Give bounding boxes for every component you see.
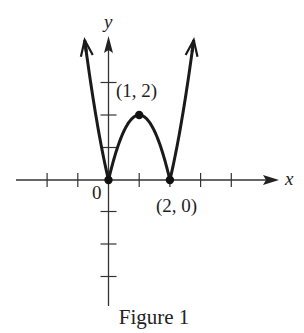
root-point-label: (2, 0) (156, 196, 197, 215)
peak-point-label: (1, 2) (116, 81, 157, 100)
point-marker (135, 111, 143, 119)
figure: y x 0 (1, 2) (2, 0) Figure 1 (0, 0, 304, 333)
x-axis-label: x (285, 169, 293, 188)
left-curve-arrow-icon-shaft (85, 40, 87, 52)
right-curve-arrow-icon-shaft (192, 40, 194, 52)
figure-caption: Figure 1 (0, 307, 304, 328)
point-marker (104, 176, 112, 184)
origin-label: 0 (92, 183, 102, 202)
chart-plot (0, 0, 304, 333)
y-axis-label: y (104, 12, 112, 31)
point-marker (166, 176, 174, 184)
